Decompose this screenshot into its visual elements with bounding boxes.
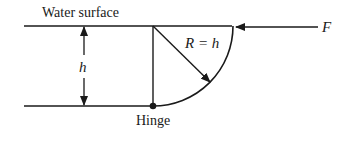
hinged-gate-diagram: Water surface h R = h F Hinge <box>0 0 351 141</box>
depth-label: h <box>79 60 87 75</box>
hinge-point <box>150 103 157 110</box>
hinge-label: Hinge <box>136 114 170 128</box>
water-surface-label: Water surface <box>42 6 119 20</box>
diagram-graphics <box>0 0 351 141</box>
radius-label: R = h <box>185 36 219 51</box>
force-label: F <box>322 20 331 35</box>
